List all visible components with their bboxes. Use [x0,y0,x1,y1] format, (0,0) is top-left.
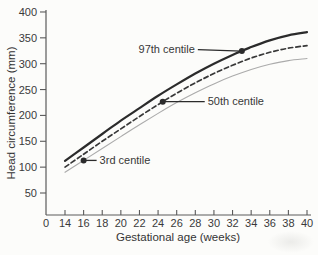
y-axis-label: Head circumference (mm) [5,46,17,179]
y-tick-label: 150 [19,135,37,147]
x-tick-label: 38 [282,217,294,229]
x-tick-label: 16 [77,217,89,229]
x-tick-label: 34 [245,217,257,229]
y-tick-label: 250 [19,84,37,96]
y-tick-label: 200 [19,109,37,121]
x-tick-label: 20 [115,217,127,229]
annotation-label-3rd: 3rd centile [100,154,151,166]
x-tick-label: 36 [264,217,276,229]
y-tick-label: 400 [19,6,37,18]
x-tick-label: 30 [208,217,220,229]
annotation-label-50th: 50th centile [208,95,264,107]
x-axis-label: Gestational age (weeks) [116,231,240,243]
x-tick-label: 18 [96,217,108,229]
growth-chart-figure: 5010015020025030035040001416182022242628… [0,0,318,255]
y-tick-label: 350 [19,32,37,44]
annotation-dot [239,48,245,54]
x-tick-label: 32 [226,217,238,229]
x-tick-label: 22 [133,217,145,229]
annotation-dot [81,157,87,163]
y-tick-label: 100 [19,161,37,173]
annotation-dot [160,99,166,105]
chart-canvas: 5010015020025030035040001416182022242628… [0,0,318,255]
y-tick-label: 50 [25,187,37,199]
axis-ticks: 5010015020025030035040001416182022242628… [19,6,313,229]
annotation-label-97th: 97th centile [139,43,195,55]
x-tick-label: 26 [171,217,183,229]
x-tick-label: 28 [189,217,201,229]
x-tick-label: 40 [301,217,313,229]
annotation-leader-line [198,50,242,52]
annotation-50th-centile: 50th centile [160,95,264,107]
x-tick-label: 0 [43,217,49,229]
y-tick-label: 300 [19,58,37,70]
x-tick-label: 14 [59,217,71,229]
annotation-97th-centile: 97th centile [139,43,245,55]
x-tick-label: 24 [152,217,164,229]
